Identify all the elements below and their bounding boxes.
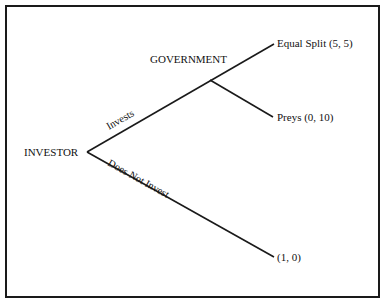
edge-does-not-invest-label: Does Not Invest — [106, 157, 171, 200]
outcome-preys-label: Preys (0, 10) — [277, 111, 334, 124]
game-tree-diagram: INVESTOR GOVERNMENT Invests Does Not Inv… — [0, 0, 384, 303]
node-government-label: GOVERNMENT — [150, 53, 227, 65]
edge-preys — [210, 80, 273, 117]
outcome-no-invest-label: (1, 0) — [277, 251, 301, 264]
edge-invests-label: Invests — [105, 107, 136, 131]
outcome-equal-split-label: Equal Split (5, 5) — [277, 37, 353, 50]
node-investor-label: INVESTOR — [24, 146, 79, 158]
